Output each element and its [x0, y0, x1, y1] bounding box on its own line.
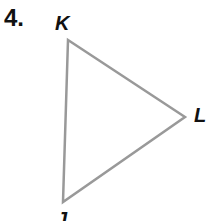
vertex-label-l: L	[194, 104, 206, 127]
triangle-diagram	[0, 0, 208, 221]
vertex-label-k: K	[55, 12, 69, 35]
vertex-label-j: J	[56, 208, 67, 221]
triangle-jkl	[63, 40, 185, 202]
